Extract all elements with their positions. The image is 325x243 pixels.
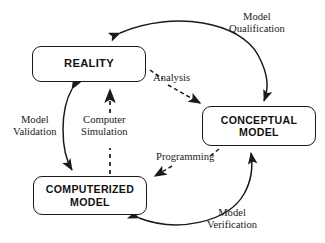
node-reality[interactable]: REALITY	[32, 46, 146, 82]
edge-label-model-validation: Model Validation	[12, 114, 58, 138]
analysis-dash-lower	[168, 85, 200, 103]
node-conceptual-model-label: CONCEPTUAL MODEL	[221, 114, 298, 139]
node-conceptual-model[interactable]: CONCEPTUAL MODEL	[202, 106, 316, 146]
edge-label-programming: Programming	[155, 151, 215, 163]
diagram-canvas: REALITY CONCEPTUAL MODEL COMPUTERIZED MO…	[0, 0, 325, 243]
node-computerized-model-label: COMPUTERIZED MODEL	[46, 183, 134, 208]
edge-model-validation	[63, 89, 72, 170]
programming-dash-lower	[155, 166, 172, 176]
edge-label-model-qualification: Model Qualification	[228, 11, 286, 35]
edge-label-computer-simulation: Computer Simulation	[80, 114, 129, 138]
edge-label-analysis: Analysis	[152, 72, 191, 84]
node-computerized-model[interactable]: COMPUTERIZED MODEL	[33, 176, 147, 215]
node-reality-label: REALITY	[64, 57, 114, 70]
edge-label-model-verification: Model Verification	[206, 207, 258, 231]
model-validation-arc	[63, 89, 72, 170]
